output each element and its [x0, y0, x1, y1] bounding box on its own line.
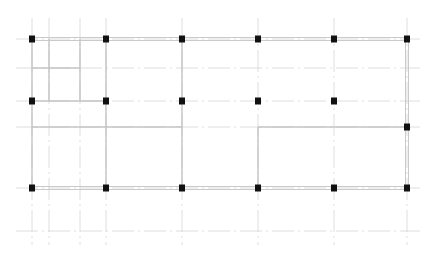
walls [32, 38, 409, 190]
structural-column [29, 98, 35, 105]
structural-column [255, 185, 261, 192]
structural-column [255, 36, 261, 43]
structural-column [179, 36, 185, 43]
floor-plan-canvas [0, 0, 435, 261]
structural-column [331, 98, 337, 105]
structural-column [404, 185, 410, 192]
structural-column [255, 98, 261, 105]
structural-column [103, 185, 109, 192]
structural-column [29, 185, 35, 192]
structural-column [179, 185, 185, 192]
grid-lines [16, 18, 420, 245]
structural-column [404, 124, 410, 131]
structural-column [331, 185, 337, 192]
structural-column [404, 36, 410, 43]
structural-column [29, 36, 35, 43]
structural-column [103, 36, 109, 43]
structural-column [179, 98, 185, 105]
structural-column [331, 36, 337, 43]
columns [29, 36, 410, 192]
structural-column [103, 98, 109, 105]
